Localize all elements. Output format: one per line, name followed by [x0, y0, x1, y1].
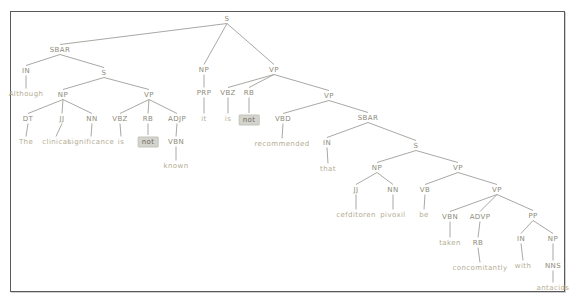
tree-edge	[329, 101, 368, 113]
tree-word-w-clinical: clinical	[42, 139, 69, 146]
tree-label-dt-1: DT	[23, 116, 33, 123]
tree-edge	[478, 248, 480, 263]
tree-edge	[450, 195, 497, 212]
tree-word-w-taken: taken	[439, 240, 461, 247]
tree-edge	[60, 55, 104, 68]
tree-edge	[28, 100, 63, 114]
tree-label-s-1: S	[102, 70, 107, 77]
tree-edge	[228, 75, 274, 88]
parse-tree-canvas: SSBARNPVPINSAlthoughNPVPDTJJNNTheclinica…	[0, 0, 578, 306]
tree-word-w-with: with	[515, 263, 531, 270]
tree-edge	[104, 78, 149, 90]
tree-word-w-is-2: is	[225, 116, 231, 123]
tree-edge	[377, 151, 416, 163]
tree-word-w-is-1: is	[118, 139, 124, 146]
tree-label-vp-3: VP	[453, 165, 463, 172]
tree-label-prp-1: PRP	[197, 90, 212, 97]
tree-edge	[63, 78, 104, 90]
tree-label-nn-1: NN	[86, 116, 97, 123]
tree-word-w-antacids: antacids	[537, 285, 570, 292]
tree-edges	[0, 0, 578, 306]
tree-word-w-be: be	[419, 212, 429, 219]
tree-edge	[327, 123, 368, 138]
tree-label-np-it: NP	[199, 67, 209, 74]
tree-label-in-2: IN	[323, 140, 331, 147]
tree-edge	[497, 195, 533, 211]
tree-edge	[478, 222, 480, 238]
tree-word-w-significance: significance	[68, 139, 114, 146]
tree-edge	[204, 24, 227, 65]
tree-label-vb-1: VB	[420, 187, 430, 194]
tree-word-w-that: that	[320, 166, 336, 173]
tree-label-vbn-2: VBN	[442, 214, 458, 221]
tree-edge	[521, 244, 523, 261]
tree-label-sbar-1: SBAR	[50, 47, 71, 54]
tree-edge	[148, 100, 149, 114]
tree-edge	[63, 100, 92, 114]
tree-edge	[26, 124, 28, 137]
tree-edge	[62, 100, 63, 114]
tree-word-w-it: it	[201, 116, 207, 123]
tree-word-w-although: Although	[9, 91, 44, 98]
tree-edge	[283, 101, 329, 114]
tree-edge	[521, 221, 533, 234]
tree-label-advp-1: ADVP	[470, 214, 491, 221]
tree-edge	[60, 24, 227, 45]
tree-edge	[368, 123, 416, 141]
tree-label-vbn-1: VBN	[168, 139, 184, 146]
tree-edge	[120, 124, 121, 137]
tree-label-rb-1: RB	[143, 116, 153, 123]
tree-edge	[176, 124, 177, 137]
tree-edge	[425, 173, 458, 185]
tree-word-w-known: known	[164, 163, 189, 170]
tree-label-np-2: NP	[372, 165, 382, 172]
tree-label-s-root: S	[225, 16, 230, 23]
tree-label-in-3: IN	[517, 236, 525, 243]
tree-edge	[282, 124, 283, 139]
tree-label-adjp-1: ADJP	[168, 116, 186, 123]
tree-edge	[458, 173, 497, 185]
tree-label-pp-1: PP	[528, 213, 537, 220]
tree-edge	[91, 124, 92, 137]
tree-label-jj-2: JJ	[354, 187, 359, 194]
tree-edge	[120, 100, 149, 114]
tree-label-vp-4: VP	[492, 187, 502, 194]
tree-word-w-not-2: not	[239, 115, 260, 126]
tree-edge	[424, 195, 425, 210]
tree-word-w-concomitantly: concomitantly	[453, 265, 508, 272]
tree-label-vbd-1: VBD	[275, 116, 291, 123]
tree-word-w-not-1: not	[138, 137, 159, 148]
tree-label-s-2: S	[414, 143, 419, 150]
tree-edge	[26, 55, 60, 66]
tree-label-rb-2: RB	[244, 90, 254, 97]
tree-edge	[533, 221, 553, 234]
tree-label-jj-1: JJ	[60, 116, 65, 123]
tree-word-w-cefditoren: cefditoren	[336, 212, 376, 219]
tree-word-w-pivoxil: pivoxil	[380, 212, 405, 219]
tree-edge	[149, 100, 177, 114]
tree-edge	[356, 173, 377, 185]
tree-label-vp-main: VP	[269, 67, 279, 74]
tree-edge	[56, 124, 62, 137]
tree-label-rb-3: RB	[473, 240, 483, 247]
tree-label-vbz-2: VBZ	[220, 90, 236, 97]
tree-word-w-the: The	[19, 139, 33, 146]
tree-edge	[274, 75, 329, 91]
tree-edge	[377, 173, 393, 185]
tree-label-nns-1: NNS	[545, 263, 561, 270]
tree-edge	[227, 24, 274, 65]
tree-edge	[327, 148, 328, 164]
tree-word-w-recommended: recommended	[254, 141, 309, 148]
tree-edge	[416, 151, 458, 163]
tree-label-vp-1: VP	[144, 92, 154, 99]
tree-label-nn-2: NN	[387, 187, 398, 194]
tree-label-sbar-2: SBAR	[358, 115, 379, 122]
tree-label-in-1: IN	[22, 68, 30, 75]
tree-label-np-3: NP	[548, 236, 558, 243]
tree-label-vp-2: VP	[324, 93, 334, 100]
tree-label-np-1: NP	[58, 92, 68, 99]
tree-label-vbz-1: VBZ	[112, 116, 128, 123]
